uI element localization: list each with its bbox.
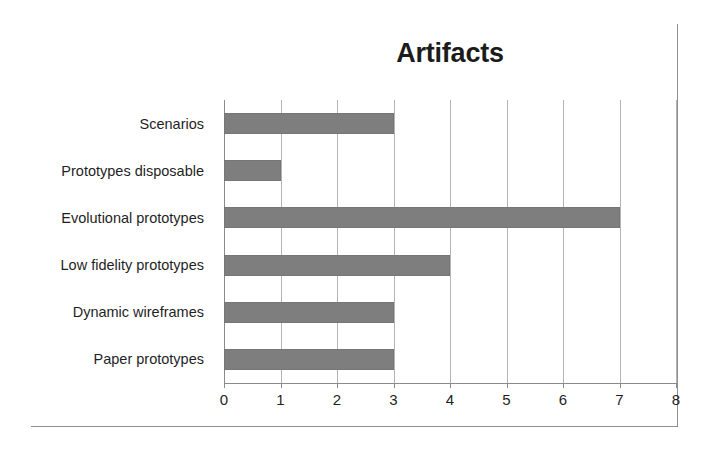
category-label: Low fidelity prototypes (14, 241, 214, 288)
category-label: Paper prototypes (14, 336, 214, 383)
bar-scenarios (224, 113, 394, 134)
bar-chart: Artifacts ScenariosPrototypes disposable… (0, 0, 716, 456)
x-tick-label: 4 (430, 391, 470, 408)
bar-row (224, 289, 676, 336)
tick-mark-7 (620, 383, 621, 388)
tick-mark-2 (337, 383, 338, 388)
gridline-8 (676, 100, 677, 383)
bar-prototypes-disposable (224, 160, 281, 181)
tick-mark-0 (224, 383, 225, 388)
bar-paper-prototypes (224, 349, 394, 370)
tick-mark-8 (676, 383, 677, 388)
tick-mark-6 (563, 383, 564, 388)
x-tick-label: 5 (487, 391, 527, 408)
tick-mark-1 (281, 383, 282, 388)
x-tick-label: 3 (374, 391, 414, 408)
x-tick-label: 2 (317, 391, 357, 408)
bar-row (224, 194, 676, 241)
bar-evolutional-prototypes (224, 207, 620, 228)
category-label: Prototypes disposable (14, 147, 214, 194)
bar-row (224, 241, 676, 288)
bar-row (224, 100, 676, 147)
x-tick-label: 7 (600, 391, 640, 408)
category-label: Dynamic wireframes (14, 289, 214, 336)
bar-row (224, 336, 676, 383)
bar-low-fidelity-prototypes (224, 255, 450, 276)
tick-mark-5 (507, 383, 508, 388)
plot-area (224, 100, 676, 383)
x-tick-label: 0 (204, 391, 244, 408)
category-axis-labels: ScenariosPrototypes disposableEvolutiona… (14, 100, 214, 383)
x-tick-label: 1 (261, 391, 301, 408)
category-label: Scenarios (14, 100, 214, 147)
bar-dynamic-wireframes (224, 302, 394, 323)
tick-mark-4 (450, 383, 451, 388)
x-tick-label: 8 (656, 391, 696, 408)
category-label: Evolutional prototypes (14, 194, 214, 241)
bar-row (224, 147, 676, 194)
bar-series (224, 100, 676, 383)
x-tick-label: 6 (543, 391, 583, 408)
chart-title: Artifacts (224, 38, 676, 69)
tick-mark-3 (394, 383, 395, 388)
